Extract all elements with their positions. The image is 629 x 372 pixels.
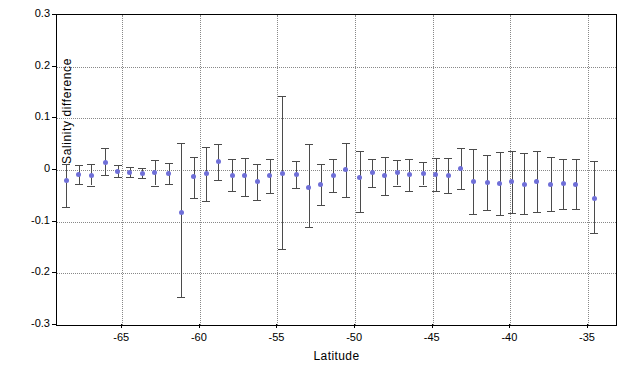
y-tick-label: 0.3 — [4, 8, 50, 19]
data-point-marker — [382, 173, 387, 178]
error-bar-cap — [202, 201, 210, 202]
y-tick-mark — [52, 14, 56, 15]
error-bar-cap — [253, 200, 261, 201]
y-tick-mark — [52, 272, 56, 273]
x-tick-mark — [121, 324, 122, 328]
error-bar-cap — [278, 96, 286, 97]
data-point-marker — [294, 172, 299, 177]
error-bar-cap — [393, 186, 401, 187]
data-point-marker — [179, 210, 184, 215]
data-point-marker — [115, 169, 120, 174]
data-point-marker — [446, 173, 451, 178]
error-bar-cap — [508, 151, 516, 152]
gridline-vertical — [355, 15, 356, 325]
error-bar-cap — [190, 198, 198, 199]
data-point-marker — [433, 172, 438, 177]
data-point-marker — [242, 173, 247, 178]
data-point-marker — [152, 170, 157, 175]
error-bar-cap — [419, 186, 427, 187]
x-tick-label: -55 — [256, 332, 296, 343]
error-bar-cap — [87, 164, 95, 165]
error-bar-cap — [228, 191, 236, 192]
x-tick-mark — [432, 324, 433, 328]
error-bar-cap — [317, 164, 325, 165]
error-bar-cap — [253, 164, 261, 165]
error-bar-cap — [469, 149, 477, 150]
error-bar-cap — [266, 193, 274, 194]
y-tick-label: -0.1 — [4, 215, 50, 226]
error-bar-cap — [214, 180, 222, 181]
gridline-vertical — [200, 15, 201, 325]
data-point-marker — [573, 182, 578, 187]
error-bar-cap — [533, 151, 541, 152]
error-bar-cap — [292, 188, 300, 189]
data-point-marker — [522, 182, 527, 187]
data-point-marker — [561, 181, 566, 186]
data-point-marker — [548, 182, 553, 187]
data-point-marker — [89, 173, 94, 178]
gridline-horizontal — [57, 67, 616, 68]
data-point-marker — [395, 170, 400, 175]
error-bar-cap — [393, 160, 401, 161]
error-bar-cap — [483, 210, 491, 211]
error-bar-cap — [520, 153, 528, 154]
y-tick-mark — [52, 221, 56, 222]
error-bar-cap — [381, 157, 389, 158]
error-bar-cap — [138, 168, 146, 169]
data-point-marker — [204, 171, 209, 176]
error-bar-cap — [508, 213, 516, 214]
x-tick-label: -50 — [334, 332, 374, 343]
error-bar-cap — [241, 158, 249, 159]
error-bar-cap — [305, 144, 313, 145]
error-bar-cap — [278, 249, 286, 250]
error-bar-cap — [114, 165, 122, 166]
x-tick-label: -35 — [567, 332, 607, 343]
error-bar-cap — [165, 184, 173, 185]
gridline-horizontal — [57, 273, 616, 274]
error-bar-cap — [329, 159, 337, 160]
error-bar-cap — [202, 147, 210, 148]
y-axis-label: Salinity difference — [60, 41, 74, 181]
x-tick-mark — [509, 324, 510, 328]
error-bar-cap — [75, 165, 83, 166]
error-bar-cap — [559, 159, 567, 160]
y-tick-label: 0 — [4, 163, 50, 174]
data-point-marker — [407, 172, 412, 177]
data-point-marker — [421, 171, 426, 176]
error-bar-cap — [151, 160, 159, 161]
error-bar-cap — [496, 215, 504, 216]
data-point-marker — [370, 170, 375, 175]
data-point-marker — [485, 180, 490, 185]
error-bar-cap — [266, 159, 274, 160]
x-tick-mark — [587, 324, 588, 328]
y-tick-label: 0.2 — [4, 60, 50, 71]
gridline-horizontal — [57, 222, 616, 223]
salinity-difference-scatter-chart: Salinity difference Latitude 0.30.20.10-… — [0, 0, 629, 372]
error-bar-cap — [165, 163, 173, 164]
x-tick-mark — [276, 324, 277, 328]
data-point-marker — [306, 185, 311, 190]
gridline-vertical — [433, 15, 434, 325]
error-bar-cap — [572, 159, 580, 160]
x-tick-label: -40 — [489, 332, 529, 343]
error-bar-cap — [177, 297, 185, 298]
error-bar-cap — [444, 193, 452, 194]
y-tick-label: -0.3 — [4, 318, 50, 329]
error-bar-cap — [457, 189, 465, 190]
error-bar-cap — [228, 159, 236, 160]
error-bar-cap — [342, 197, 350, 198]
y-tick-mark — [52, 169, 56, 170]
error-bar-cap — [126, 167, 134, 168]
error-bar-cap — [151, 186, 159, 187]
data-point-marker — [267, 173, 272, 178]
x-tick-mark — [354, 324, 355, 328]
data-point-marker — [471, 179, 476, 184]
error-bar-cap — [87, 186, 95, 187]
error-bar-cap — [432, 191, 440, 192]
error-bar-cap — [305, 227, 313, 228]
data-point-marker — [76, 172, 81, 177]
error-bar-cap — [190, 157, 198, 158]
error-bar-cap — [368, 159, 376, 160]
error-bar-cap — [547, 157, 555, 158]
error-bar-cap — [559, 209, 567, 210]
